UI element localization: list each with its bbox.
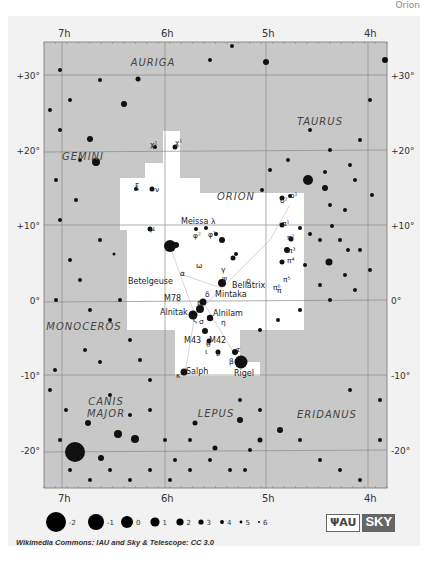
star-label: υ: [216, 349, 220, 358]
star-label: μ: [150, 224, 155, 233]
star: [358, 248, 362, 252]
constellation-name: ERIDANUS: [297, 409, 357, 420]
dec-label-left: 0°: [30, 296, 40, 306]
magnitude-dot: [46, 512, 66, 532]
star-label: Alnilam: [213, 309, 243, 318]
star-label: α: [180, 269, 185, 278]
star: [258, 438, 263, 443]
star-label: Alnitak: [160, 308, 188, 317]
constellation-name: MONOCEROS: [46, 321, 121, 332]
star: [188, 468, 192, 472]
star: [78, 278, 82, 282]
star: [343, 208, 347, 212]
star: [88, 308, 92, 312]
star: [118, 298, 122, 302]
star: [298, 226, 302, 230]
star: [58, 438, 62, 442]
iau-logo: ΨAU: [326, 514, 360, 532]
magnitude-dot: [258, 521, 260, 523]
star: [348, 388, 352, 392]
star: [131, 435, 139, 443]
magnitude-dot: [198, 519, 203, 524]
star-label: ε: [197, 298, 201, 307]
star-label: Betelgeuse: [128, 277, 173, 286]
magnitude-dot: [88, 514, 104, 530]
magnitude-dot: [240, 521, 243, 524]
star-label: χ¹: [175, 138, 182, 147]
star: [68, 98, 72, 102]
ra-label-top: 4h: [364, 28, 377, 39]
star-label: ρ: [246, 276, 251, 285]
star: [98, 78, 102, 82]
star: [328, 203, 332, 207]
constellation-name: MAJOR: [87, 408, 125, 419]
star-label: ψ: [222, 274, 227, 283]
star: [368, 98, 372, 102]
star: [173, 458, 177, 462]
star: [378, 438, 382, 442]
star-label: ο²: [280, 196, 288, 205]
star: [202, 328, 208, 334]
star: [219, 237, 225, 243]
star: [263, 59, 269, 65]
star: [382, 57, 388, 63]
star: [234, 252, 238, 256]
star: [113, 253, 116, 256]
star: [326, 259, 333, 266]
star-label: δ: [205, 290, 210, 299]
star-label: γ: [221, 265, 226, 274]
star: [87, 136, 93, 142]
star: [163, 438, 167, 442]
star: [318, 238, 322, 242]
credit-caption: Wikimedia Commons: IAU and Sky & Telesco…: [16, 538, 214, 547]
star-label: ω: [196, 261, 202, 270]
star: [370, 193, 374, 197]
publisher-logo: ΨAU SKY: [326, 514, 395, 532]
ra-label-top: 7h: [58, 28, 71, 39]
dec-label-right: +30°: [391, 71, 415, 81]
star: [230, 44, 234, 48]
star-label: β: [229, 357, 234, 366]
dec-label-left: +30°: [17, 71, 41, 81]
star: [138, 358, 142, 362]
star: [277, 427, 283, 433]
star: [188, 438, 192, 442]
star: [148, 378, 152, 382]
star-label: φ¹: [208, 230, 216, 239]
star: [237, 417, 243, 423]
star: [358, 478, 362, 482]
star: [128, 413, 132, 417]
star: [98, 360, 102, 364]
star: [54, 178, 58, 182]
star: [58, 218, 62, 222]
star: [260, 188, 264, 192]
constellation-name: CANIS: [88, 396, 124, 407]
star: [173, 242, 179, 248]
star: [98, 455, 104, 461]
magnitude-label: 2: [187, 519, 191, 527]
magnitude-label: 5: [245, 519, 249, 527]
dec-label-right: +10°: [391, 221, 415, 231]
star-label: Meissa: [181, 217, 208, 226]
ra-label-bottom: 7h: [58, 493, 71, 504]
star-label: π³: [288, 246, 296, 255]
star: [346, 248, 350, 252]
star: [258, 328, 262, 332]
star: [136, 77, 141, 82]
star: [114, 430, 122, 438]
star-label: κ: [176, 371, 181, 380]
constellation-name: GEMINI: [62, 151, 104, 162]
star: [54, 298, 58, 302]
magnitude-dot: [176, 518, 183, 525]
star: [68, 258, 72, 262]
magnitude-dot: [220, 520, 224, 524]
star: [235, 356, 248, 369]
star-label: η: [221, 318, 226, 327]
magnitude-label: 3: [207, 519, 211, 527]
star: [328, 298, 332, 302]
star: [58, 68, 62, 72]
magnitude-label: -1: [107, 519, 114, 527]
star: [258, 408, 262, 412]
star-map: 7h6h5h4h7h6h5h4h+30°+20°+10°0°-10°-20°+3…: [0, 0, 428, 568]
star: [286, 158, 290, 162]
